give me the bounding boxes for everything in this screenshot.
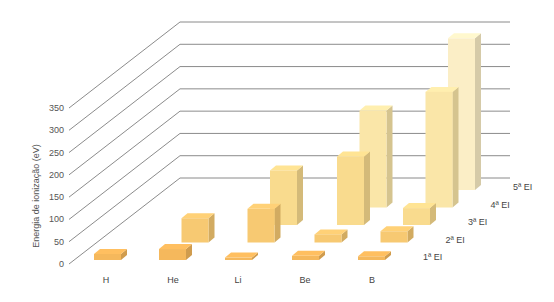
y-axis-ticks: 050100150200250300350 (49, 103, 64, 269)
grid-diagonal (69, 67, 180, 153)
grid-diagonal (69, 44, 180, 130)
y-tick-label: 50 (54, 237, 64, 247)
x-category-label: H (103, 275, 110, 285)
x-category-label: B (369, 275, 375, 285)
y-tick-label: 150 (49, 192, 64, 202)
y-tick-label: 250 (49, 148, 64, 158)
y-tick-label: 0 (59, 259, 64, 269)
y-tick-label: 200 (49, 170, 64, 180)
series-label: 5ª EI (513, 182, 532, 192)
x-category-label: He (167, 275, 179, 285)
bar-be-3 (337, 151, 370, 225)
y-tick-label: 100 (49, 214, 64, 224)
bar-b-3 (403, 203, 436, 225)
bar-li-2 (248, 204, 281, 243)
grid-diagonal (69, 89, 180, 175)
bar-b-1 (358, 251, 391, 260)
series-label: 1ª EI (423, 252, 442, 262)
x-axis-categories: HHeLiBeB (103, 275, 375, 285)
bar-he-1 (159, 244, 192, 260)
bar-b-4 (426, 87, 459, 208)
series-label: 2ª EI (446, 235, 465, 245)
bar-be-2 (315, 229, 348, 242)
bar-li-1 (225, 253, 258, 260)
series-label: 4ª EI (491, 200, 510, 210)
x-category-label: Li (234, 275, 241, 285)
y-tick-label: 300 (49, 125, 64, 135)
bar-h-1 (94, 249, 127, 260)
bar-he-2 (182, 213, 215, 242)
grid-diagonal (69, 133, 180, 219)
bars (94, 33, 481, 260)
series-label: 3ª EI (468, 217, 487, 227)
grid-diagonal (69, 22, 180, 108)
ionization-energy-chart: 050100150200250300350 Energia de ionizaç… (0, 0, 554, 302)
y-tick-label: 350 (49, 103, 64, 113)
x-category-label: Be (299, 275, 310, 285)
grid-diagonal (69, 111, 180, 197)
bar-b-2 (381, 226, 414, 242)
bar-be-1 (292, 251, 325, 260)
grid-diagonal (69, 156, 180, 242)
y-axis-title: Energia de ionização (eV) (31, 144, 41, 248)
